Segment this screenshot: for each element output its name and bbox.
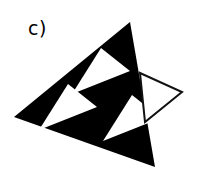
panel-label: c) xyxy=(28,19,47,38)
figure-panel: c) xyxy=(0,0,199,185)
